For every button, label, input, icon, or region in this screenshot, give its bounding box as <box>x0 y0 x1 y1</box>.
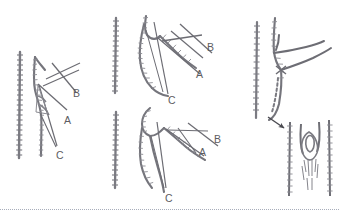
bone-outline-middle-top <box>140 16 196 96</box>
scale-bar-middle-top <box>112 18 119 93</box>
panel-left-drawing <box>16 52 80 158</box>
panel-right-drawing <box>253 18 333 196</box>
panel-middle-top-drawing <box>112 16 212 96</box>
label-panel-left-c: C <box>56 150 64 161</box>
label-panel-middle-bottom-b: B <box>214 134 221 145</box>
bottom-dotted-rule <box>0 209 339 210</box>
label-panel-left-a: A <box>64 115 71 126</box>
label-panel-middle-bottom-c: C <box>165 193 173 204</box>
magnification-arrow <box>268 117 284 128</box>
figure-drawing <box>0 0 339 223</box>
label-panel-middle-top-a: A <box>196 69 203 80</box>
measure-line-a-middle-top <box>158 38 200 74</box>
label-panel-middle-top-b: B <box>207 42 214 53</box>
label-panel-left-b: B <box>73 88 80 99</box>
label-panel-middle-bottom-a: A <box>199 147 206 158</box>
label-panel-middle-top-c: C <box>168 95 176 106</box>
scale-bar-left <box>16 52 23 158</box>
scale-bar-right-a <box>253 22 260 118</box>
inset-magnified-vessel <box>287 120 333 196</box>
figure-root: B A C B A C B A C <box>0 0 339 223</box>
scale-bar-middle-bottom <box>112 112 119 188</box>
vessel-branches-right <box>274 35 331 70</box>
measure-quad-middle-bottom <box>178 128 196 153</box>
measure-line-b2-middle-bottom <box>168 130 208 131</box>
